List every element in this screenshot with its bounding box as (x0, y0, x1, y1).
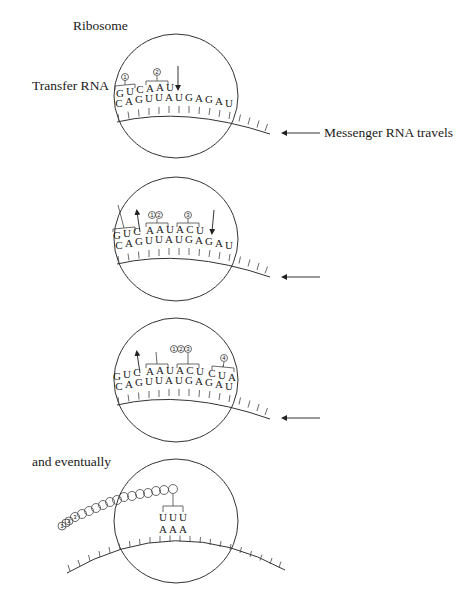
svg-text:A: A (146, 82, 154, 94)
svg-text:U: U (166, 364, 174, 376)
svg-text:G: G (113, 370, 121, 382)
svg-text:3: 3 (73, 514, 77, 520)
transfer-rna-label: Transfer RNA (32, 78, 109, 93)
svg-text:G: G (113, 229, 121, 241)
svg-text:G: G (185, 91, 193, 103)
arrow-down-icon (212, 210, 214, 232)
svg-text:C: C (186, 223, 193, 235)
svg-text:3: 3 (186, 212, 190, 218)
svg-text:U: U (225, 239, 233, 251)
svg-text:A: A (146, 365, 154, 377)
svg-text:G: G (205, 93, 213, 105)
svg-text:A: A (146, 224, 154, 236)
svg-text:G: G (116, 87, 124, 99)
panel-2: C A G U U A U G A G A U G U C A A U A C … (113, 177, 320, 301)
svg-text:3: 3 (186, 346, 190, 352)
trna-exiting-bracket (113, 205, 135, 232)
svg-text:4: 4 (222, 355, 226, 361)
and-eventually-label: and eventually (32, 454, 111, 469)
panel-4: and eventually U U U A A A (32, 454, 285, 583)
svg-text:A: A (215, 237, 223, 249)
svg-text:G: G (205, 235, 213, 247)
mrna-strand (117, 258, 270, 277)
svg-text:A: A (159, 523, 167, 535)
svg-text:U: U (123, 368, 131, 380)
svg-text:1: 1 (172, 346, 176, 352)
svg-text:U: U (196, 224, 204, 236)
svg-text:A: A (195, 92, 203, 104)
svg-text:A: A (228, 371, 236, 383)
svg-text:A: A (179, 523, 187, 535)
svg-text:2: 2 (157, 212, 161, 218)
svg-text:U: U (225, 97, 233, 109)
svg-text:2: 2 (155, 69, 159, 75)
protein-synthesis-diagram: Ribosome Transfer RNA C A G U U A U G A … (0, 0, 457, 614)
svg-text:U: U (123, 227, 131, 239)
panel-1: Ribosome Transfer RNA C A G U U A U G A … (32, 18, 453, 158)
panel-3: C A G U U A U G A G A U G U C A A U A C … (113, 318, 320, 442)
svg-text:U: U (126, 85, 134, 97)
svg-text:U: U (179, 511, 187, 523)
messenger-rna-label: Messenger RNA travels (324, 125, 453, 140)
svg-text:2: 2 (179, 346, 183, 352)
svg-text:C: C (186, 364, 193, 376)
svg-text:U: U (159, 511, 167, 523)
mrna-strand (117, 116, 270, 134)
svg-text:A: A (215, 95, 223, 107)
svg-text:U: U (166, 223, 174, 235)
svg-text:A: A (156, 81, 164, 93)
svg-text:U: U (166, 81, 174, 93)
svg-text:A: A (156, 223, 164, 235)
svg-text:A: A (156, 364, 164, 376)
svg-text:C: C (136, 83, 143, 95)
mrna-ticks (118, 106, 268, 131)
svg-text:1: 1 (150, 212, 154, 218)
svg-text:U: U (196, 365, 204, 377)
svg-text:U: U (169, 511, 177, 523)
svg-text:U: U (175, 91, 183, 103)
mrna-strand (117, 399, 270, 419)
svg-text:A: A (169, 523, 177, 535)
trna-bracket (163, 494, 183, 512)
svg-text:1: 1 (123, 74, 127, 80)
svg-text:U: U (218, 369, 226, 381)
ribosome-label: Ribosome (73, 18, 128, 33)
